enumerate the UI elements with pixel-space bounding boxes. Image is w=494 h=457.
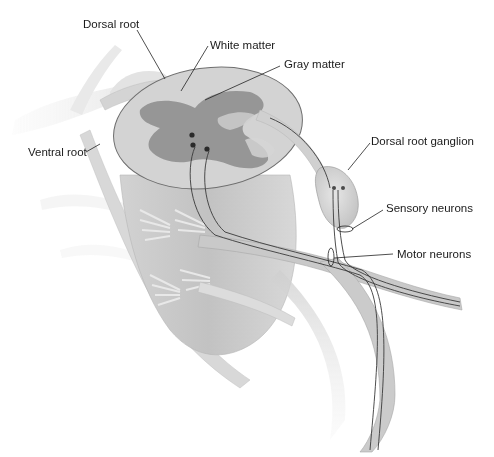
spinal-cord-illustration bbox=[0, 0, 494, 457]
label-gray-matter: Gray matter bbox=[284, 59, 345, 71]
label-sensory-neurons: Sensory neurons bbox=[386, 203, 473, 215]
label-dorsal-root-ganglion: Dorsal root ganglion bbox=[371, 136, 474, 148]
ganglion-cell-body bbox=[332, 186, 336, 190]
leader-motor-neurons bbox=[334, 254, 393, 258]
ganglion-cell-body bbox=[341, 186, 345, 190]
neuron-cell-body bbox=[190, 142, 195, 147]
label-motor-neurons: Motor neurons bbox=[397, 249, 471, 261]
label-ventral-root: Ventral root bbox=[28, 147, 87, 159]
neuron-cell-body bbox=[204, 146, 209, 151]
label-dorsal-root: Dorsal root bbox=[83, 19, 139, 31]
dorsal-root-ganglion bbox=[315, 167, 358, 229]
leader-dorsal-root-ganglion bbox=[348, 143, 370, 170]
neuron-cell-body bbox=[189, 132, 194, 137]
label-white-matter: White matter bbox=[210, 40, 275, 52]
